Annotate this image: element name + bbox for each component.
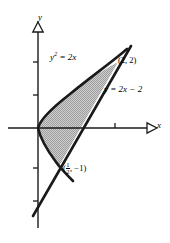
plot-canvas bbox=[0, 0, 170, 243]
point-label-lower: (12, −1) bbox=[63, 162, 86, 177]
x-axis-arrowhead-icon bbox=[147, 123, 157, 133]
figure-container: y2 = 2x y = 2x − 2 (2, 2) (12, −1) y x bbox=[0, 0, 170, 243]
fraction-one-half: 12 bbox=[66, 162, 70, 177]
curve-label-parabola: y2 = 2x bbox=[50, 51, 76, 62]
point-label-upper: (2, 2) bbox=[118, 56, 136, 65]
axis-label-x: x bbox=[157, 121, 161, 130]
y-axis-arrowhead-icon bbox=[33, 22, 43, 32]
axis-label-y: y bbox=[38, 13, 42, 22]
curve-label-line: y = 2x − 2 bbox=[104, 85, 142, 94]
